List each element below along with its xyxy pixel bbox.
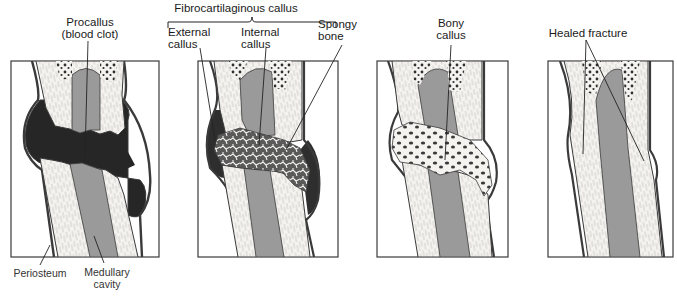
label-spongy-bone: Spongy bone [318,18,368,42]
label-line: Internal [241,26,291,38]
label-line: Procallus [58,16,122,28]
label-line: Fibrocartilaginous callus [162,2,310,14]
label-line: Periosteum [10,267,70,279]
label-line: callus [428,29,474,41]
label-medullary-cavity: Medullary cavity [82,266,132,290]
label-line: Spongy [318,18,368,30]
label-fibrocartilaginous-callus: Fibrocartilaginous callus [162,2,310,14]
label-line: Healed fracture [540,27,636,39]
panel-4-healed [548,40,673,257]
label-procallus: Procallus (blood clot) [58,16,122,40]
label-line: callus [241,38,291,50]
label-line: External [168,26,218,38]
label-external-callus: External callus [168,26,218,50]
label-healed-fracture: Healed fracture [540,27,636,39]
label-internal-callus: Internal callus [241,26,291,50]
panel-3-bony-callus [377,45,508,257]
panel-1-hematoma [11,41,159,265]
label-line: callus [168,38,218,50]
label-line: (blood clot) [58,28,122,40]
label-bony-callus: Bony callus [428,17,474,41]
fracture-healing-diagram [0,0,677,304]
label-line: cavity [82,278,132,290]
panel-2-fibrocartilaginous [168,17,342,257]
label-periosteum: Periosteum [10,267,70,279]
label-line: Bony [428,17,474,29]
label-line: Medullary [82,266,132,278]
label-line: bone [318,30,368,42]
